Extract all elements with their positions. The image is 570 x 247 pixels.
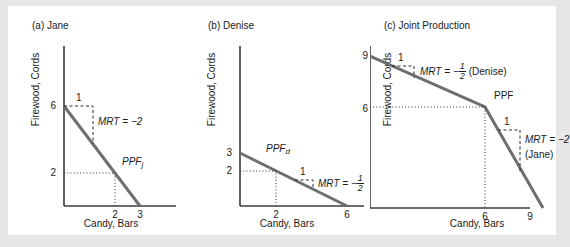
rise-label-joint-upper: 1 <box>398 52 404 63</box>
panel-denise: (b) Denise Firewood, Cords Candy, Bars 3… <box>194 6 380 235</box>
x-tick-joint-9: 9 <box>522 211 538 222</box>
mrt-joint-upper-owner: (Denise) <box>469 66 507 77</box>
mrt-label-joint-upper: MRT = −12(Denise) <box>420 62 507 81</box>
mrt-joint-lower-owner: (Jane) <box>525 149 553 160</box>
x-tick-denise-2: 2 <box>268 209 284 220</box>
ppf-label-denise-subscript: d <box>285 147 289 156</box>
y-tick-jane-6: 6 <box>42 100 56 111</box>
y-tick-jane-2: 2 <box>42 167 56 178</box>
mrt-denise-prefix: MRT = − <box>318 178 357 189</box>
mrt-joint-upper-fraction: 12 <box>459 62 466 81</box>
y-tick-denise-2: 2 <box>218 165 232 176</box>
ppf-label-jane-subscript: j <box>141 160 143 169</box>
plot-area-joint <box>370 6 556 235</box>
ppf-label-jane-text: PPF <box>122 156 141 167</box>
y-tick-joint-9: 9 <box>354 50 368 61</box>
mrt-denise-fraction: 12 <box>357 174 364 193</box>
rise-label-denise: 1 <box>300 166 306 177</box>
plot-area-denise <box>194 6 380 235</box>
ppf-label-denise: PPFd <box>266 143 290 156</box>
panel-joint-production: (c) Joint Production Firewood, Cords Can… <box>370 6 556 235</box>
mrt-label-joint-lower: MRT = −2 <box>525 134 569 145</box>
mrt-joint-upper-denominator: 2 <box>459 72 466 81</box>
ppf-label-jane: PPFj <box>122 156 143 169</box>
x-tick-jane-2: 2 <box>107 209 123 220</box>
mrt-label-jane: MRT = −2 <box>98 116 142 127</box>
mrt-joint-upper-prefix: MRT = − <box>420 66 459 77</box>
y-tick-joint-6: 6 <box>354 103 368 114</box>
mrt-denise-denominator: 2 <box>357 184 364 193</box>
x-tick-joint-6: 6 <box>477 211 493 222</box>
y-tick-denise-3: 3 <box>218 147 232 158</box>
panel-jane: (a) Jane Firewood, Cords Candy, Bars 6 2… <box>18 6 204 235</box>
rise-label-jane: 1 <box>76 92 82 103</box>
ppf-label-denise-text: PPF <box>266 143 285 154</box>
rise-label-joint-lower: 1 <box>504 116 510 127</box>
figure-container: (a) Jane Firewood, Cords Candy, Bars 6 2… <box>8 6 556 235</box>
x-tick-jane-3: 3 <box>132 209 148 220</box>
ppf-label-joint: PPF <box>494 90 513 101</box>
mrt-label-denise: MRT = −12 <box>318 174 364 193</box>
x-tick-denise-6: 6 <box>339 209 355 220</box>
